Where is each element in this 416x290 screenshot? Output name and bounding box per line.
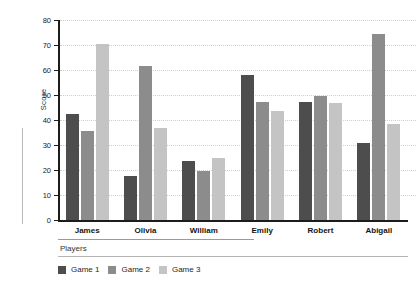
- x-tick-label: Emily: [251, 226, 272, 235]
- x-axis-title-block: Players: [58, 239, 408, 257]
- legend-swatch-icon: [108, 266, 116, 274]
- bar[interactable]: [66, 114, 79, 220]
- bar[interactable]: [182, 161, 195, 221]
- bar[interactable]: [387, 124, 400, 220]
- bar[interactable]: [299, 102, 312, 220]
- legend-label: Game 2: [121, 265, 149, 274]
- bar-chart: Score 01020304050607080 JamesOliviaWilli…: [0, 0, 416, 290]
- y-tick-mark: [54, 220, 58, 221]
- plot-area: 01020304050607080 JamesOliviaWilliamEmil…: [58, 20, 408, 220]
- legend-label: Game 1: [71, 265, 99, 274]
- legend-swatch-icon: [58, 266, 66, 274]
- x-axis-title: Players: [58, 240, 408, 256]
- bar[interactable]: [256, 102, 269, 220]
- bar[interactable]: [197, 171, 210, 220]
- x-tick-label: James: [75, 226, 100, 235]
- x-axis-rule-bottom: [58, 256, 408, 257]
- y-tick-label: 30: [43, 141, 51, 150]
- y-tick-label: 40: [43, 116, 51, 125]
- bar[interactable]: [154, 128, 167, 220]
- y-axis-side-rule: [22, 128, 23, 224]
- bar-group: James: [58, 20, 116, 220]
- legend-label: Game 3: [172, 265, 200, 274]
- legend-item[interactable]: Game 2: [108, 265, 149, 274]
- x-tick-label: Abigail: [365, 226, 392, 235]
- bar-group: Olivia: [116, 20, 174, 220]
- bar[interactable]: [96, 44, 109, 220]
- y-tick-label: 60: [43, 66, 51, 75]
- legend-item[interactable]: Game 3: [159, 265, 200, 274]
- chart-legend: Game 1Game 2Game 3: [58, 265, 200, 274]
- bar[interactable]: [372, 34, 385, 220]
- bar-group: Abigail: [350, 20, 408, 220]
- bar[interactable]: [357, 143, 370, 221]
- bar[interactable]: [81, 131, 94, 220]
- y-tick-label: 0: [47, 216, 51, 225]
- bar[interactable]: [314, 96, 327, 221]
- y-tick-label: 10: [43, 191, 51, 200]
- y-tick-label: 80: [43, 16, 51, 25]
- bar[interactable]: [212, 158, 225, 220]
- y-tick-label: 20: [43, 166, 51, 175]
- y-tick-label: 50: [43, 91, 51, 100]
- bar-group: William: [175, 20, 233, 220]
- legend-item[interactable]: Game 1: [58, 265, 99, 274]
- x-axis-line: [58, 220, 408, 222]
- bar[interactable]: [124, 176, 137, 220]
- bar[interactable]: [139, 66, 152, 220]
- bar-group: Robert: [291, 20, 349, 220]
- bar[interactable]: [329, 103, 342, 221]
- bar[interactable]: [271, 111, 284, 220]
- x-tick-label: Olivia: [135, 226, 157, 235]
- y-tick-label: 70: [43, 41, 51, 50]
- bar[interactable]: [241, 75, 254, 220]
- legend-swatch-icon: [159, 266, 167, 274]
- x-tick-label: Robert: [308, 226, 334, 235]
- bar-group: Emily: [233, 20, 291, 220]
- x-tick-label: William: [190, 226, 218, 235]
